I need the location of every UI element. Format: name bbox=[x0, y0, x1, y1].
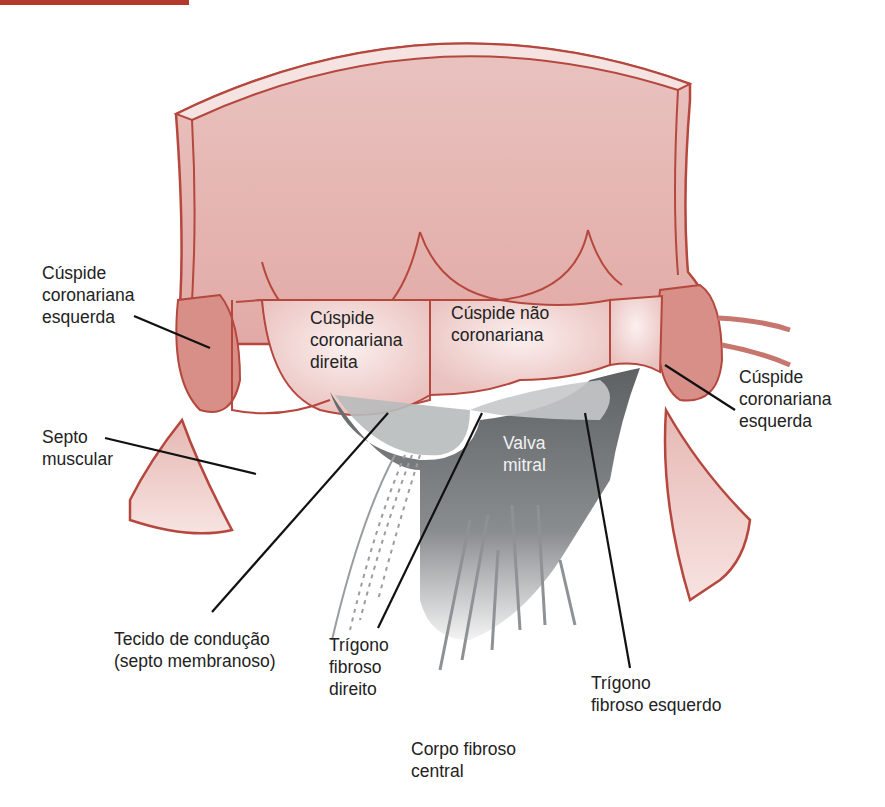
left-coronary-artery bbox=[718, 318, 790, 365]
label-central-fibrous-body: Corpo fibroso central bbox=[411, 738, 516, 782]
label-left-coronary-cusp-left: Cúspide coronariana esquerda bbox=[42, 262, 134, 328]
label-right-coronary-cusp: Cúspide coronariana direita bbox=[310, 307, 402, 373]
leader-conduction-tissue bbox=[212, 413, 388, 612]
left-ventricle-wall bbox=[665, 410, 750, 600]
mitral-valve bbox=[330, 368, 640, 640]
label-conduction-tissue: Tecido de condução (septo membranoso) bbox=[114, 628, 275, 672]
left-sinus-bulge-right bbox=[658, 285, 723, 401]
label-left-fibrous-trigone: Trígono fibroso esquerdo bbox=[591, 672, 721, 716]
label-left-coronary-cusp-right: Cúspide coronariana esquerda bbox=[739, 366, 831, 432]
label-right-fibrous-trigone: Trígono fibroso direito bbox=[329, 634, 389, 700]
conduction-bundle bbox=[332, 455, 420, 640]
label-mitral-valve: Valva mitral bbox=[503, 432, 546, 476]
label-non-coronary-cusp: Cúspide não coronariana bbox=[451, 302, 549, 346]
muscular-septum-mass bbox=[130, 420, 232, 533]
left-sinus-bulge-left bbox=[176, 295, 240, 412]
label-muscular-septum: Septo muscular bbox=[42, 426, 113, 470]
